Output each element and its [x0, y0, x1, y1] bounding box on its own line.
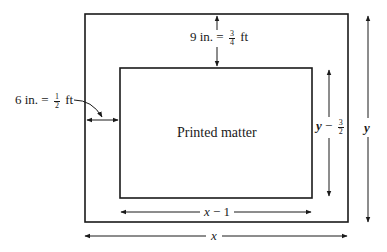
outer-height-label: y: [364, 118, 370, 137]
side-margin-label: 6 in. = 12 ft: [15, 93, 73, 110]
outer-width-label: x: [206, 229, 222, 242]
top-margin-label: 9 in. = 34 ft: [188, 30, 250, 47]
printed-matter-label: Printed matter: [177, 126, 257, 140]
inner-width-label: x − 1: [200, 205, 234, 218]
top-margin-unit: ft: [240, 29, 248, 44]
inner-height-label: y − 32: [316, 117, 346, 138]
top-margin-prefix: 9 in. =: [190, 29, 224, 44]
side-margin-prefix: 6 in. =: [15, 92, 49, 107]
top-margin-fraction: 34: [229, 30, 235, 47]
side-margin-pointer: [74, 100, 102, 117]
side-margin-unit: ft: [65, 92, 73, 107]
side-margin-fraction: 12: [54, 93, 60, 110]
